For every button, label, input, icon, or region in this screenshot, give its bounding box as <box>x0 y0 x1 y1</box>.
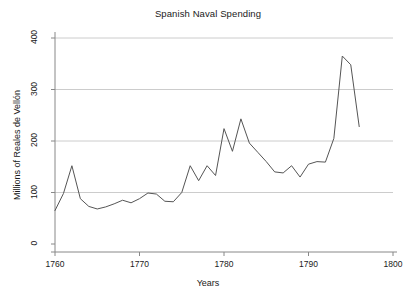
x-tick-label: 1780 <box>204 259 244 269</box>
y-tick-label: 400 <box>29 24 39 50</box>
chart-figure: Spanish Naval Spending Millions of Reale… <box>0 0 416 297</box>
data-series-group <box>55 56 359 211</box>
x-tick-label: 1770 <box>120 259 160 269</box>
x-tick-label: 1760 <box>35 259 75 269</box>
y-tick-label: 0 <box>29 230 39 256</box>
x-tick-label: 1790 <box>289 259 329 269</box>
plot-area <box>0 0 416 297</box>
y-tick-label: 300 <box>29 76 39 102</box>
x-tick-marks <box>55 252 393 256</box>
gridlines <box>55 38 393 193</box>
y-tick-label: 200 <box>29 127 39 153</box>
data-line <box>55 56 359 211</box>
y-tick-marks <box>51 38 55 244</box>
axes <box>51 32 397 252</box>
x-tick-label: 1800 <box>373 259 413 269</box>
y-tick-label: 100 <box>29 179 39 205</box>
